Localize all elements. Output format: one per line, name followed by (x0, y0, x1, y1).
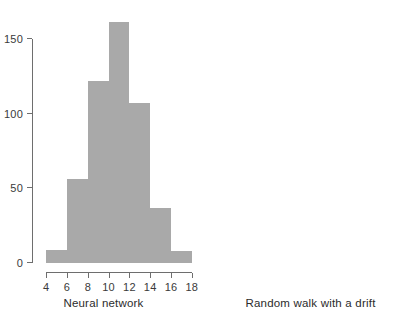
x-axis-label: 4 (43, 281, 49, 293)
x-axis-label: 14 (144, 281, 157, 293)
x-axis-title-right: Random walk with a drift (207, 297, 414, 309)
y-axis-label: 50 (10, 182, 23, 194)
y-axis-tick (27, 262, 32, 263)
histogram-bar (109, 22, 130, 263)
histogram-bar (88, 81, 109, 263)
chart-panel-random-walk: 0204060801001206810121416 Random walk wi… (207, 0, 414, 328)
x-axis-label: 18 (185, 281, 198, 293)
x-axis-label: 8 (85, 281, 91, 293)
plot-area-left: 0501001504681012141618 (40, 12, 198, 263)
x-axis-tick (129, 273, 130, 278)
y-axis-tick (27, 38, 32, 39)
y-axis-tick (27, 113, 32, 114)
histogram-bar (129, 103, 150, 263)
histogram-bar (67, 179, 88, 263)
x-axis-tick (46, 273, 47, 278)
histogram-bar (46, 250, 67, 263)
y-axis-label: 100 (4, 108, 23, 120)
y-axis-tick (27, 187, 32, 188)
x-axis-label: 6 (64, 281, 70, 293)
chart-panel-neural-network: 0501001504681012141618 Neural network (0, 0, 207, 328)
x-axis-tick (192, 273, 193, 278)
x-axis-tick (150, 273, 151, 278)
x-axis-tick (171, 273, 172, 278)
x-axis-title-left: Neural network (0, 297, 207, 309)
x-axis-label: 16 (165, 281, 178, 293)
x-axis-label: 10 (102, 281, 115, 293)
histogram-bar (171, 251, 192, 263)
x-axis-label: 12 (123, 281, 136, 293)
figure-root: 0501001504681012141618 Neural network 02… (0, 0, 415, 328)
y-axis-label: 0 (17, 257, 23, 269)
x-axis-tick (67, 273, 68, 278)
y-axis-line (32, 39, 33, 263)
x-axis-tick (109, 273, 110, 278)
x-axis-tick (88, 273, 89, 278)
x-axis-line (46, 272, 192, 273)
histogram-bar (150, 208, 171, 263)
y-axis-label: 150 (4, 33, 23, 45)
